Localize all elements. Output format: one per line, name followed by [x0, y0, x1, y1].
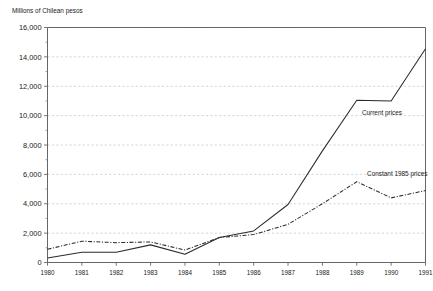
y-tick-label: 12,000 — [19, 82, 42, 91]
x-tick-label: 1985 — [212, 269, 227, 276]
y-tick-label: 2,000 — [23, 229, 42, 238]
series-label-constant-1985-prices: Constant 1985 prices — [367, 170, 427, 178]
series-line-current-prices — [48, 49, 426, 258]
series-annotations: Current pricesConstant 1985 prices — [362, 109, 428, 178]
grid-lines — [48, 28, 426, 234]
x-tick-label: 1984 — [178, 269, 193, 276]
x-tick-label: 1982 — [109, 269, 124, 276]
chart-figure: 02,0004,0006,0008,00010,00012,00014,0001… — [0, 0, 433, 291]
y-axis-tick-labels: 02,0004,0006,0008,00010,00012,00014,0001… — [19, 23, 42, 267]
y-tick-label: 14,000 — [19, 53, 42, 62]
x-axis-ticks — [48, 263, 426, 266]
x-tick-label: 1990 — [384, 269, 399, 276]
y-tick-label: 4,000 — [23, 199, 42, 208]
y-axis-title: Millions of Chilean pesos — [12, 7, 83, 15]
y-tick-label: 8,000 — [23, 141, 42, 150]
data-series-group — [48, 49, 426, 258]
x-tick-label: 1981 — [75, 269, 90, 276]
series-line-constant-1985-prices — [48, 182, 426, 250]
x-tick-label: 1991 — [418, 269, 433, 276]
series-label-current-prices: Current prices — [362, 109, 402, 117]
x-tick-label: 1983 — [144, 269, 159, 276]
x-tick-label: 1987 — [281, 269, 296, 276]
y-axis-ticks — [44, 28, 48, 263]
y-tick-label: 6,000 — [23, 170, 42, 179]
y-tick-label: 0 — [37, 258, 41, 267]
x-tick-label: 1986 — [247, 269, 262, 276]
x-tick-label: 1988 — [315, 269, 330, 276]
y-tick-label: 10,000 — [19, 111, 42, 120]
x-tick-label: 1980 — [40, 269, 55, 276]
x-axis-tick-labels: 1980198119821983198419851986198719881989… — [40, 269, 433, 276]
chart-canvas: 02,0004,0006,0008,00010,00012,00014,0001… — [0, 0, 433, 291]
y-tick-label: 16,000 — [19, 23, 42, 32]
x-tick-label: 1989 — [350, 269, 365, 276]
